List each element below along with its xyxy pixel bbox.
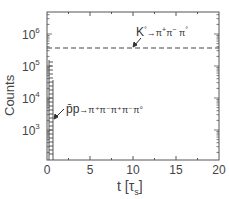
ppbar-spike: [49, 60, 53, 160]
y-tick-1e6: 106: [22, 28, 40, 41]
y-tick-1e4: 104: [22, 92, 40, 105]
y-tick-1e5: 105: [22, 60, 40, 73]
y-axis-label: Counts: [3, 75, 16, 116]
annotation-k0-decay: K°→π+π− π°: [136, 26, 188, 38]
y-tick-1e3: 103: [22, 124, 40, 137]
y-ticks: [47, 15, 219, 153]
x-tick-15: 15: [169, 164, 182, 176]
x-axis-label: t [τs]: [117, 179, 143, 197]
plot-frame: [47, 12, 219, 160]
x-tick-5: 5: [87, 164, 94, 176]
x-tick-10: 10: [126, 164, 139, 176]
annotation-ppbar-decay: p̄p→π⁺π⁻π⁺π⁻π°: [66, 103, 143, 115]
x-tick-0: 0: [44, 164, 51, 176]
x-tick-20: 20: [212, 164, 225, 176]
